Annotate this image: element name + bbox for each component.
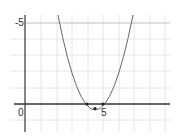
grid	[10, 15, 170, 132]
y-tick-label-top: -5	[15, 17, 24, 28]
root-point-right	[101, 102, 104, 105]
parabola-curve	[58, 15, 133, 110]
root-point-left	[85, 102, 88, 105]
origin-label: 0	[18, 107, 24, 118]
vertex-point	[93, 107, 96, 110]
parabola-chart	[0, 0, 176, 140]
x-tick-label-five: 5	[101, 107, 107, 118]
